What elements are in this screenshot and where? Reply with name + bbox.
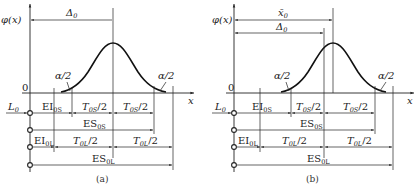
- origin-label: 0: [22, 82, 28, 93]
- y-axis-label: φ(x): [212, 14, 233, 25]
- xbar0-label: x̄0: [278, 7, 288, 20]
- l0-label: L0: [214, 101, 226, 114]
- ei0l-label: EI0L: [238, 135, 258, 148]
- t0s-left-label: T0S/2: [296, 101, 321, 114]
- panel-b: φ(x) 0 x x̄0 Δ0 α/2 α/2 L0 EI0S T0S/2 T0…: [212, 4, 414, 184]
- caption-a: (a): [96, 174, 108, 184]
- node-circle: [232, 163, 237, 168]
- l0-label: L0: [7, 101, 19, 114]
- t0s-left-label: T0S/2: [82, 101, 107, 114]
- node-circle: [232, 111, 237, 116]
- es0l-label: ES0L: [307, 153, 330, 166]
- x-axis-label: x: [188, 95, 194, 106]
- alpha-leader-right: [160, 82, 166, 91]
- origin-label: 0: [228, 82, 234, 93]
- t0l-right-label: T0L/2: [347, 135, 372, 148]
- alpha-half-left: α/2: [55, 70, 71, 81]
- normal-distribution-curve: [281, 43, 386, 92]
- es0s-label: ES0S: [83, 118, 106, 131]
- t0s-right-label: T0S/2: [123, 101, 148, 114]
- delta0-label: Δ0: [275, 21, 287, 34]
- node-circle: [28, 128, 33, 133]
- t0l-right-label: T0L/2: [133, 135, 158, 148]
- panel-a: φ(x) 0 x Δ0 α/2 α/2 L0 EI0S T0S/2 T0S/2 …: [1, 4, 194, 184]
- alpha-half-right: α/2: [158, 70, 174, 81]
- delta0-label: Δ0: [65, 7, 77, 20]
- node-circle: [28, 111, 33, 116]
- alpha-half-right: α/2: [378, 70, 394, 81]
- y-axis-label: φ(x): [1, 14, 22, 25]
- es0s-label: ES0S: [300, 118, 323, 131]
- node-circle: [232, 128, 237, 133]
- es0l-label: ES0L: [92, 153, 115, 166]
- caption-b: (b): [306, 174, 319, 184]
- t0l-left-label: T0L/2: [73, 135, 98, 148]
- tolerance-distribution-figure: φ(x) 0 x Δ0 α/2 α/2 L0 EI0S T0S/2 T0S/2 …: [0, 0, 419, 188]
- alpha-half-left: α/2: [274, 70, 290, 81]
- node-circle: [232, 145, 237, 150]
- normal-distribution-curve: [61, 43, 166, 92]
- node-circle: [28, 163, 33, 168]
- ei0l-label: EI0L: [34, 135, 54, 148]
- ei0s-label: EI0S: [252, 101, 272, 114]
- t0l-left-label: T0L/2: [282, 135, 307, 148]
- alpha-leader-right: [380, 82, 386, 91]
- t0s-right-label: T0S/2: [343, 101, 368, 114]
- node-circle: [28, 145, 33, 150]
- x-axis-label: x: [407, 95, 413, 106]
- ei0s-label: EI0S: [42, 101, 62, 114]
